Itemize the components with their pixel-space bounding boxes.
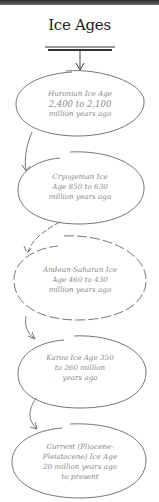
node-line: Cryogenian Ice — [22, 172, 138, 182]
node-line: Andean-Saharan Ice — [20, 265, 140, 275]
node-cryogenian: Cryogenian Ice Age 850 to 630 million ye… — [22, 172, 138, 202]
node-huronian: Huronian Ice Age 2,400 to 2,100 million … — [22, 89, 138, 119]
arrow-down-icon — [76, 51, 84, 70]
node-current: Current (Pliocene- Pleistocene) Ice Age … — [18, 442, 142, 482]
node-line: million years ago — [22, 109, 138, 119]
node-line: million years ago — [22, 192, 138, 202]
node-line: 20 million years ago — [18, 462, 142, 472]
node-karoo: Karoo Ice Age 350 to 260 million years a… — [22, 353, 138, 383]
node-line: 2,400 to 2,100 — [22, 99, 138, 109]
connector-arrow-2 — [24, 222, 60, 253]
connector-arrow-3 — [25, 316, 35, 339]
node-line: Karoo Ice Age 350 — [22, 353, 138, 363]
node-line: Age 850 to 630 — [22, 182, 138, 192]
connector-arrow-4 — [30, 398, 37, 429]
node-andean-saharan: Andean-Saharan Ice Age 460 to 430 millio… — [20, 265, 140, 295]
title-underline — [45, 47, 115, 50]
node-line: million years ago — [20, 285, 140, 295]
node-line: Huronian Ice Age — [22, 89, 138, 99]
node-line: Pleistocene) Ice Age — [18, 452, 142, 462]
flow-diagram — [0, 0, 159, 502]
node-line: to 260 million — [22, 363, 138, 373]
node-line: to present — [18, 472, 142, 482]
node-line: Age 460 to 430 — [20, 275, 140, 285]
node-line: years ago — [22, 373, 138, 383]
node-line: Current (Pliocene- — [18, 442, 142, 452]
connector-arrow-1 — [22, 132, 32, 171]
